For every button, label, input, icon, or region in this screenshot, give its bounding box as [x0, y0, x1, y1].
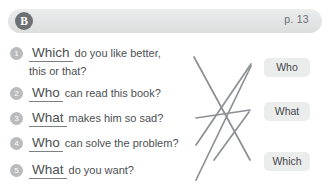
worksheet-page: B p. 13 1 Which do you like better, this… — [0, 0, 330, 190]
question-number: 1 — [10, 47, 23, 60]
section-badge: B — [15, 12, 33, 30]
question-text: can read this book? — [65, 87, 161, 99]
question-row: 1 Which do you like better, — [10, 45, 161, 62]
page-number-label: p. 13 — [284, 13, 309, 25]
question-answer-blank[interactable]: Who — [29, 85, 63, 102]
matching-line — [194, 57, 250, 160]
question-answer-blank[interactable]: Who — [29, 135, 63, 152]
question-row: 2 Who can read this book? — [10, 85, 161, 102]
question-text: do you want? — [69, 164, 134, 176]
option-box-who[interactable]: Who — [264, 58, 310, 77]
question-number: 2 — [10, 87, 23, 100]
matching-line — [196, 64, 251, 145]
matching-line — [196, 110, 250, 118]
question-text-continuation: this or that? — [29, 65, 86, 77]
question-text: do you like better, — [75, 47, 161, 59]
question-answer-blank[interactable]: What — [29, 110, 67, 127]
question-number: 3 — [10, 112, 23, 125]
matching-line — [196, 66, 251, 180]
question-row: 4 Who can solve the problem? — [10, 135, 179, 152]
option-box-what[interactable]: What — [264, 102, 310, 121]
option-box-which[interactable]: Which — [264, 152, 310, 171]
question-number: 5 — [10, 164, 23, 177]
question-row: 3 What makes him so sad? — [10, 110, 163, 127]
question-answer-blank[interactable]: Which — [29, 45, 73, 62]
matching-line — [214, 112, 249, 160]
question-number: 4 — [10, 137, 23, 150]
question-text: can solve the problem? — [65, 137, 179, 149]
question-answer-blank[interactable]: What — [29, 162, 67, 179]
question-text: makes him so sad? — [69, 112, 164, 124]
section-header-bar: B p. 13 — [8, 9, 322, 33]
question-row: 5 What do you want? — [10, 162, 134, 179]
